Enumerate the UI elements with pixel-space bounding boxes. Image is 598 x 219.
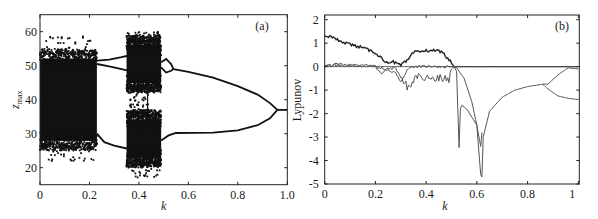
svg-text:zmax: zmax (8, 90, 24, 109)
panel-b-y-ticks: 210-1-2-3-4-5 (309, 13, 580, 191)
panel-a-data (39, 31, 287, 178)
y-tick-label: 60 (25, 25, 37, 39)
series-lambda1 (325, 36, 579, 67)
chaotic-band (126, 31, 162, 94)
branch-upper-main (174, 69, 278, 110)
panel-b-frame (325, 15, 580, 184)
x-tick-label: 0 (37, 188, 43, 202)
panel-a-bifurcation-plot: 00.20.40.60.81.0 2030405060 (a) k zmax (8, 15, 295, 213)
panel-a-ylabel: zmax (8, 90, 24, 109)
chaotic-band (39, 36, 98, 162)
branch-lower (97, 134, 129, 149)
y-tick-label: 30 (25, 127, 37, 141)
series-lambda2 (325, 63, 579, 177)
x-tick-label: 0.6 (181, 188, 196, 202)
branch-lower-main (161, 110, 277, 141)
panel-a-xlabel: k (161, 199, 167, 213)
y-tick-label: 40 (25, 93, 37, 107)
figure: 00.20.40.60.81.0 2030405060 (a) k zmax 0… (0, 0, 598, 219)
y-tick-label: -5 (309, 177, 319, 191)
y-tick-label: -3 (309, 130, 319, 144)
chaotic-band (126, 109, 162, 178)
panel-a-label: (a) (255, 19, 268, 33)
y-tick-label: 0 (313, 60, 319, 74)
panel-b-label: (b) (555, 19, 569, 33)
panel-b-x-ticks: 00.20.40.60.81 (322, 15, 579, 201)
x-tick-label: 0 (322, 187, 328, 201)
x-tick-label: 1 (569, 187, 575, 201)
x-tick-label: 0.8 (230, 188, 245, 202)
x-tick-label: 0.4 (131, 188, 146, 202)
x-tick-label: 1.0 (280, 188, 295, 202)
x-tick-label: 0.6 (469, 187, 484, 201)
y-tick-label: -2 (309, 107, 319, 121)
y-tick-label: -4 (309, 154, 319, 168)
panel-b-data (325, 36, 579, 177)
y-tick-label: 1 (313, 36, 319, 50)
x-tick-label: 0.8 (520, 187, 535, 201)
x-tick-label: 0.2 (82, 188, 97, 202)
branch-upper-p2-b (161, 67, 173, 72)
y-tick-label: 20 (25, 161, 37, 175)
series-lambda-branch-lower (543, 84, 579, 99)
y-tick-label: 50 (25, 59, 37, 73)
panel-a-ylabel-sub: max (15, 90, 24, 104)
x-tick-label: 0.4 (419, 187, 434, 201)
y-tick-label: -1 (309, 83, 319, 97)
x-tick-label: 0.2 (368, 187, 383, 201)
panel-b-lyapunov-plot: 00.20.40.60.81 210-1-2-3-4-5 (b) k Lypun… (290, 13, 579, 213)
figure-svg: 00.20.40.60.81.0 2030405060 (a) k zmax 0… (0, 0, 598, 219)
panel-b-ylabel: Lypunov (290, 79, 304, 122)
branch-upper-inner (97, 64, 129, 71)
y-tick-label: 2 (313, 13, 319, 27)
panel-b-xlabel: k (442, 199, 448, 213)
branch-upper-p2-a (161, 59, 173, 69)
branch-upper-outer (97, 56, 129, 61)
